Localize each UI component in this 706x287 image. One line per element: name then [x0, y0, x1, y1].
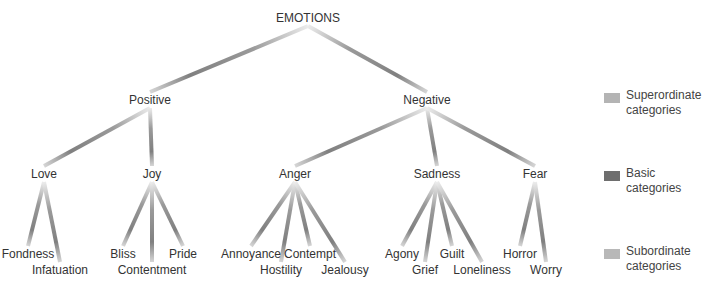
node-worry: Worry: [530, 263, 562, 277]
node-horror: Horror: [503, 247, 537, 261]
legend-line: categories: [626, 103, 701, 118]
edge-joy-bliss: [123, 182, 152, 246]
edge-root-negative: [308, 26, 427, 92]
node-bliss: Bliss: [110, 247, 135, 261]
legend-line: categories: [626, 181, 681, 196]
subordinate-swatch: [604, 249, 620, 259]
basic-swatch: [604, 171, 620, 181]
edge-positive-joy: [150, 108, 152, 166]
legend-label: Subordinate categories: [626, 244, 691, 274]
edge-love-fondness: [28, 182, 44, 246]
node-fear: Fear: [523, 167, 548, 181]
node-contentment: Contentment: [118, 263, 187, 277]
node-joy: Joy: [143, 167, 162, 181]
edge-negative-anger: [295, 108, 427, 166]
superordinate-swatch: [604, 93, 620, 103]
node-negative: Negative: [403, 93, 450, 107]
legend-label: Superordinate categories: [626, 88, 701, 118]
edge-negative-fear: [427, 108, 535, 166]
node-loneliness: Loneliness: [453, 263, 510, 277]
node-infatuation: Infatuation: [32, 263, 88, 277]
node-grief: Grief: [412, 263, 438, 277]
node-hostility: Hostility: [260, 263, 302, 277]
node-annoyance: Annoyance: [221, 247, 281, 261]
node-love: Love: [31, 167, 57, 181]
edge-root-positive: [150, 26, 308, 92]
node-fondness: Fondness: [2, 247, 55, 261]
node-guilt: Guilt: [440, 247, 465, 261]
node-agony: Agony: [385, 247, 419, 261]
legend-line: categories: [626, 259, 691, 274]
legend-line: Basic: [626, 166, 681, 181]
node-contempt: Contempt: [284, 247, 336, 261]
edge-fear-horror: [520, 182, 535, 246]
node-root: EMOTIONS: [276, 11, 340, 25]
node-positive: Positive: [129, 93, 171, 107]
tree-edges: [0, 0, 706, 287]
node-jealousy: Jealousy: [321, 263, 368, 277]
legend-line: Superordinate: [626, 88, 701, 103]
edge-positive-love: [44, 108, 150, 166]
node-anger: Anger: [279, 167, 311, 181]
edge-joy-pride: [152, 182, 183, 246]
legend-label: Basic categories: [626, 166, 681, 196]
edge-negative-sadness: [427, 108, 437, 166]
node-sadness: Sadness: [414, 167, 461, 181]
legend-line: Subordinate: [626, 244, 691, 259]
node-pride: Pride: [169, 247, 197, 261]
